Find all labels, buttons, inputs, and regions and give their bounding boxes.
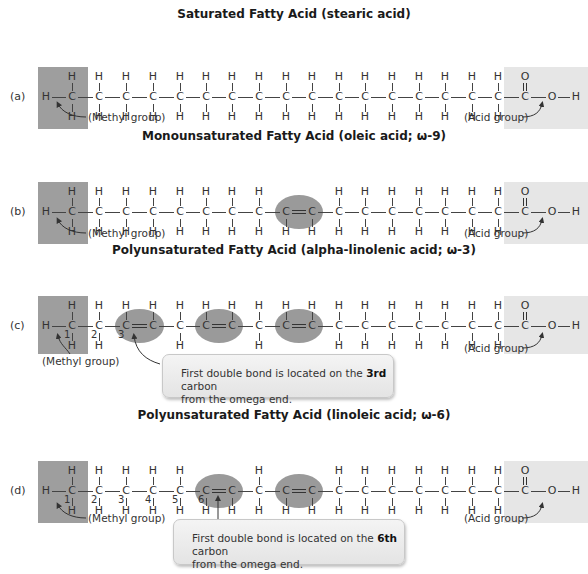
callout-arrow-c	[134, 336, 160, 364]
methyl-arrow-b	[58, 220, 86, 233]
acid-arrow-d	[522, 505, 542, 518]
methyl-arrow-a	[58, 104, 86, 117]
methyl-arrow-d	[58, 505, 86, 518]
annotation-arrows	[0, 0, 588, 574]
acid-arrow-b	[522, 220, 542, 233]
acid-arrow-c	[522, 335, 542, 348]
acid-arrow-a	[522, 104, 542, 117]
methyl-arrow-c	[58, 336, 70, 354]
